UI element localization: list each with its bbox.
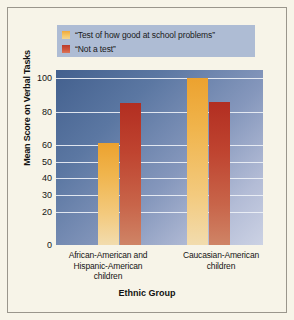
y-tick-label: 80	[42, 107, 52, 116]
y-tick-label: 50	[42, 157, 52, 166]
x-axis-title: Ethnic Group	[7, 288, 287, 298]
gridline	[56, 212, 263, 213]
gridline	[56, 195, 263, 196]
legend-item-series-a: “Test of how good at school problems”	[62, 28, 251, 41]
bar	[98, 143, 119, 245]
plot-wrapper: 0203040506080100 African-American andHis…	[56, 70, 263, 245]
gridline	[56, 145, 263, 146]
y-tick-label: 30	[42, 191, 52, 200]
y-tick-label: 20	[42, 207, 52, 216]
category-label: Caucasian-Americanchildren	[161, 250, 281, 271]
y-axis-title: Mean Score on Verbal Tasks	[22, 33, 32, 183]
series-a-swatch-icon	[62, 31, 70, 39]
y-tick-label: 100	[37, 74, 52, 83]
bar	[187, 78, 208, 245]
bar	[209, 102, 230, 245]
legend-label-series-b: “Not a test”	[75, 44, 116, 54]
y-tick-label: 60	[42, 141, 52, 150]
bar	[120, 103, 141, 245]
series-b-swatch-icon	[62, 45, 70, 53]
figure: “Test of how good at school problems” “N…	[0, 0, 294, 320]
gridline	[56, 78, 263, 79]
legend-item-series-b: “Not a test”	[62, 42, 251, 55]
y-tick-label: 40	[42, 174, 52, 183]
chart-legend: “Test of how good at school problems” “N…	[57, 25, 255, 57]
plot-area	[56, 70, 263, 245]
category-label: African-American andHispanic-Americanchi…	[38, 250, 178, 282]
gridline	[56, 112, 263, 113]
gridline	[56, 162, 263, 163]
y-tick-label: 0	[47, 241, 52, 250]
gridline	[56, 178, 263, 179]
legend-label-series-a: “Test of how good at school problems”	[75, 30, 215, 40]
